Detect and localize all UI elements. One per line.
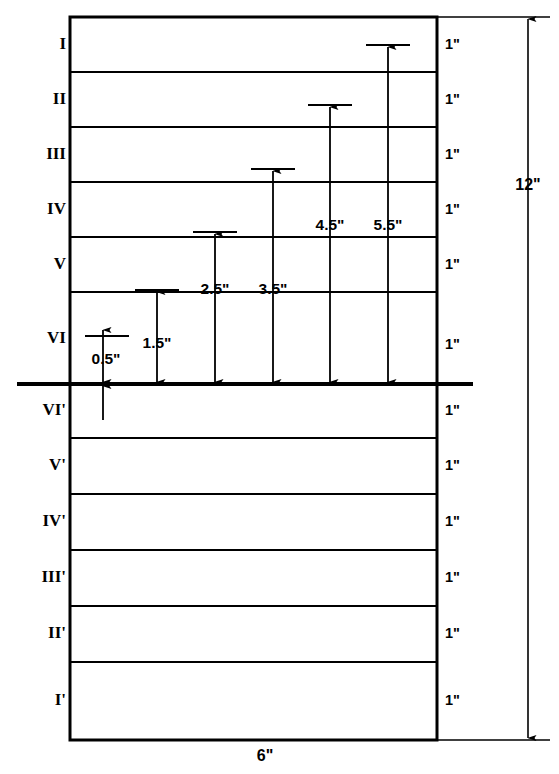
band-labels: I II III IV V VI VI' V' IV' III' II' I' [41, 34, 66, 709]
band-label-Vp: V' [49, 455, 66, 474]
dimension-4p5-label: 4.5" [316, 216, 345, 233]
band-label-VIp: VI' [42, 400, 66, 419]
dimension-5p5-label: 5.5" [374, 216, 403, 233]
inch-labels: 1" 1" 1" 1" 1" 1" 1" 1" 1" 1" 1" 1" [445, 36, 460, 708]
figure-container: I II III IV V VI VI' V' IV' III' II' I' … [0, 0, 559, 774]
inch-label-row-10: 1" [445, 569, 460, 585]
band-label-III: III [46, 144, 66, 163]
layered-block-diagram: I II III IV V VI VI' V' IV' III' II' I' … [0, 0, 559, 774]
dimension-3p5-label: 3.5" [259, 280, 288, 297]
inch-label-row-5: 1" [445, 256, 460, 272]
band-label-IVp: IV' [42, 511, 66, 530]
band-label-IV: IV [47, 199, 67, 218]
inch-label-row-3: 1" [445, 146, 460, 162]
band-label-V: V [54, 254, 67, 273]
dimension-0p5-label: 0.5" [92, 350, 121, 367]
band-label-VI: VI [47, 328, 66, 347]
band-label-I: I [59, 34, 66, 53]
inch-label-row-4: 1" [445, 201, 460, 217]
band-label-II: II [53, 89, 67, 108]
dimension-2p5-label: 2.5" [201, 280, 230, 297]
band-label-IIp: II' [48, 623, 66, 642]
inch-label-row-6: 1" [445, 336, 460, 352]
inch-label-row-11: 1" [445, 625, 460, 641]
inch-label-row-8: 1" [445, 457, 460, 473]
band-label-Ip: I' [55, 690, 66, 709]
inch-label-row-12: 1" [445, 692, 460, 708]
inch-label-row-9: 1" [445, 513, 460, 529]
inch-label-row-7: 1" [445, 402, 460, 418]
total-width-label: 6" [257, 747, 273, 764]
dimension-1p5-label: 1.5" [143, 334, 172, 351]
inch-label-row-2: 1" [445, 91, 460, 107]
inch-label-row-1: 1" [445, 36, 460, 52]
block-outline [70, 17, 437, 740]
band-label-IIIp: III' [41, 567, 66, 586]
total-height-label: 12" [515, 176, 540, 193]
